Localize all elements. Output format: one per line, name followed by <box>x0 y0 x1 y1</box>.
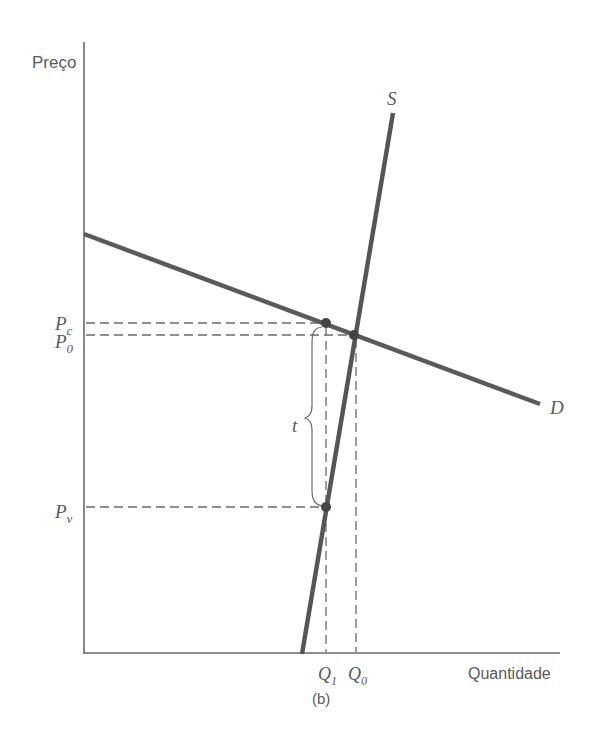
seller-price-point <box>321 502 331 512</box>
panel-label: (b) <box>312 690 330 707</box>
tax-label: t <box>292 415 298 436</box>
supply-demand-tax-chart: Preço Quantidade S D t (b) Pc P0 Pv Q1 Q… <box>0 0 592 756</box>
x-axis-label: Quantidade <box>468 665 551 682</box>
pv-label: Pv <box>54 501 73 526</box>
q0-label: Q0 <box>348 664 367 688</box>
dashed-guides <box>86 323 356 652</box>
consumer-price-point <box>321 318 331 328</box>
tax-brace <box>305 327 322 506</box>
supply-label: S <box>387 88 397 109</box>
q1-label: Q1 <box>318 664 337 688</box>
demand-label: D <box>549 397 564 418</box>
y-axis-label: Preço <box>32 53 76 72</box>
supply-curve <box>302 113 393 654</box>
equilibrium-point <box>349 330 359 340</box>
